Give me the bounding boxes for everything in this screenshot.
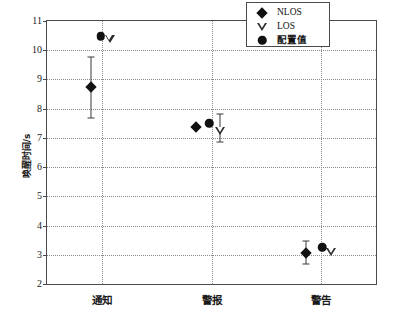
chart-figure: 唤醒时间/s 234567891011通知警报警告 NLOSLOS配置值 (0, 0, 393, 312)
marker-filled-circle (205, 119, 214, 128)
y-axis-tick (43, 50, 47, 51)
plot-area: 234567891011通知警报警告 (47, 21, 376, 284)
x-axis-tick-label: 通知 (92, 292, 112, 307)
y-axis-tick-label: 7 (37, 133, 42, 143)
x-axis-tick-label: 警报 (202, 292, 222, 307)
chart-legend: NLOSLOS配置值 (246, 2, 330, 47)
marker-open-triangle-down (326, 248, 336, 256)
error-bar-cap (217, 142, 224, 143)
y-axis-tick-label: 5 (37, 191, 42, 201)
marker-triangle-inner (328, 248, 334, 253)
legend-marker (247, 20, 277, 34)
y-axis-tick-label: 10 (32, 45, 42, 55)
y-axis-tick-label: 11 (32, 16, 42, 26)
y-axis-tick (43, 79, 47, 80)
legend-marker (247, 33, 277, 47)
y-axis-tick (43, 138, 47, 139)
marker-filled-circle (258, 36, 267, 45)
y-axis-tick (43, 109, 47, 110)
y-axis-tick-label: 9 (37, 74, 42, 84)
marker-open-triangle-down (215, 127, 225, 135)
y-axis-tick-label: 2 (37, 279, 42, 289)
y-axis-tick (43, 167, 47, 168)
marker-filled-diamond (85, 81, 96, 92)
error-bar-cap (217, 113, 224, 114)
error-bar-cap (87, 56, 94, 57)
marker-triangle-inner (217, 127, 223, 132)
legend-marker (247, 6, 277, 20)
error-bar-cap (302, 263, 309, 264)
y-axis-tick (43, 255, 47, 256)
y-axis-label: 唤醒时间/s (20, 134, 33, 179)
legend-label: NLOS (277, 8, 302, 18)
y-axis-tick-label: 3 (37, 250, 42, 260)
marker-filled-diamond (190, 121, 201, 132)
legend-label: LOS (277, 22, 295, 32)
y-axis-tick (43, 21, 47, 22)
error-bar-cap (87, 118, 94, 119)
y-axis-tick-label: 6 (37, 162, 42, 172)
y-axis-tick-label: 4 (37, 221, 42, 231)
legend-label: 配置值 (277, 35, 307, 45)
gridline-vertical (212, 21, 213, 284)
marker-filled-diamond (256, 7, 267, 18)
y-axis-tick-label: 8 (37, 104, 42, 114)
legend-item-los: LOS (247, 20, 329, 34)
marker-filled-circle (318, 243, 327, 252)
legend-item-nlos: NLOS (247, 6, 329, 20)
marker-open-triangle-down (105, 35, 115, 43)
y-axis-tick (43, 284, 47, 285)
marker-open-triangle-down (257, 23, 267, 31)
marker-triangle-inner (106, 35, 112, 40)
y-axis-tick (43, 196, 47, 197)
y-axis-tick (43, 226, 47, 227)
plot-frame: 234567891011通知警报警告 (46, 20, 377, 285)
marker-filled-circle (96, 32, 105, 41)
marker-filled-diamond (300, 247, 311, 258)
error-bar-cap (302, 240, 309, 241)
x-axis-tick-label: 警告 (311, 292, 331, 307)
gridline-vertical (102, 21, 103, 284)
marker-triangle-inner (259, 23, 265, 28)
legend-item-config-value: 配置值 (247, 33, 329, 47)
